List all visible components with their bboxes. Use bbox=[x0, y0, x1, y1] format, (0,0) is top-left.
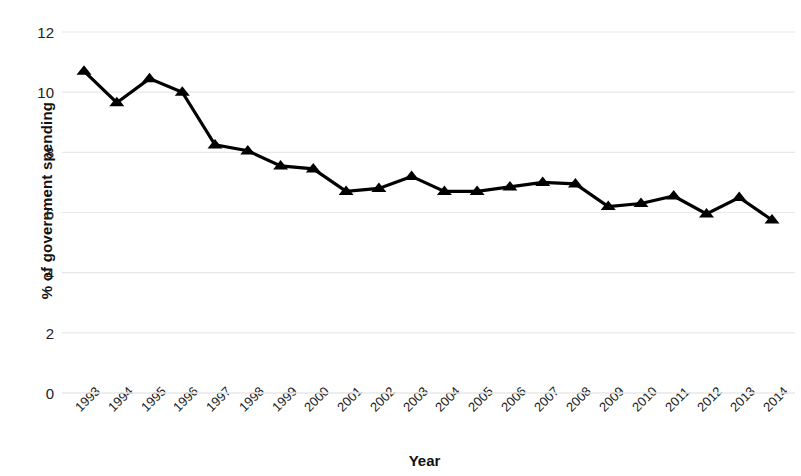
data-markers bbox=[77, 65, 780, 223]
data-point-marker bbox=[404, 171, 419, 181]
data-point-marker bbox=[666, 190, 681, 200]
data-point-marker bbox=[732, 192, 747, 202]
gridlines bbox=[62, 32, 795, 393]
data-point-marker bbox=[208, 139, 223, 149]
plot-area bbox=[0, 0, 801, 476]
x-axis-title: Year bbox=[0, 452, 801, 469]
data-point-marker bbox=[142, 73, 157, 83]
data-point-marker bbox=[77, 65, 92, 75]
x-axis-title-text: Year bbox=[409, 452, 441, 469]
line-chart: % of government spending 024681012 19931… bbox=[0, 0, 801, 476]
